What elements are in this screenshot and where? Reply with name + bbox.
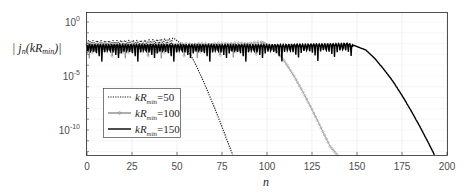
y-tick-label: 10-10: [59, 123, 80, 136]
x-tick-label: 100: [259, 161, 276, 172]
x-tick-label: 25: [126, 161, 138, 172]
y-axis-label: | jn(kRmin)|: [12, 41, 62, 56]
x-tick-label: 75: [216, 161, 228, 172]
svg-text:| jn(kRmin)|: | jn(kRmin)|: [12, 41, 62, 56]
x-axis-label: n: [263, 175, 269, 189]
x-tick-label: 0: [84, 161, 90, 172]
legend: kRmin=50kRmin=100kRmin=150: [104, 89, 181, 138]
x-tick-label: 200: [439, 161, 456, 172]
x-tick-label: 125: [304, 161, 321, 172]
x-tick-label: 50: [171, 161, 183, 172]
y-tick-label: 10-5: [63, 69, 80, 82]
y-tick-label: 100: [65, 15, 80, 28]
bessel-magnitude-chart: 0255075100125150175200 10010-510-10 n | …: [0, 0, 473, 194]
x-axis-ticks: 0255075100125150175200: [84, 152, 456, 172]
x-tick-label: 175: [394, 161, 411, 172]
y-axis-ticks: 10010-510-10: [59, 15, 89, 152]
x-tick-label: 150: [349, 161, 366, 172]
